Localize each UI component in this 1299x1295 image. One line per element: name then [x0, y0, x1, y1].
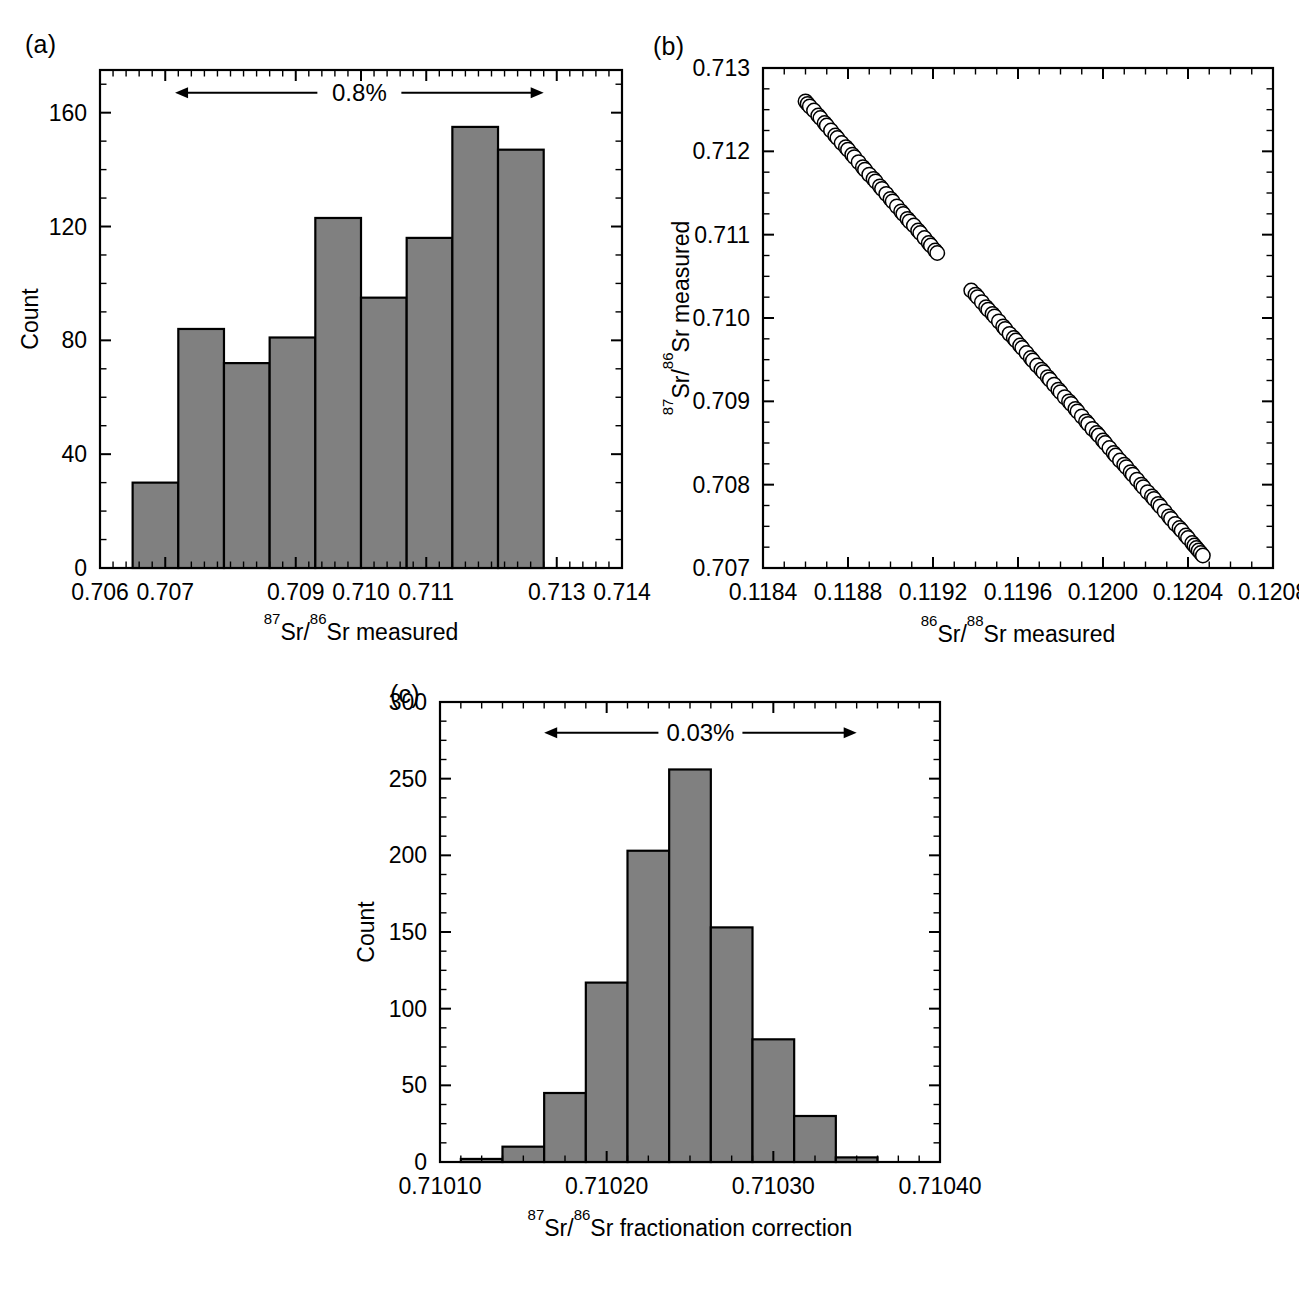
svg-text:87Sr/86Sr measured: 87Sr/86Sr measured [659, 221, 695, 415]
svg-text:87Sr/86Sr fractionation correc: 87Sr/86Sr fractionation correction [528, 1206, 853, 1242]
panel-b: (b) 0.11840.11880.11920.11960.12000.1204… [645, 0, 1299, 660]
histogram-bar [133, 483, 179, 568]
x-tick-label: 0.71030 [732, 1173, 815, 1199]
y-tick-label: 200 [389, 842, 427, 868]
histogram-bar [361, 298, 407, 568]
x-tick-label: 0.1208 [1238, 579, 1299, 605]
histogram-bar [794, 1116, 836, 1162]
x-tick-label: 0.713 [528, 579, 586, 605]
y-tick-label: 0.709 [692, 388, 750, 414]
svg-text:0.03%: 0.03% [666, 719, 734, 746]
histogram-bar [452, 127, 498, 568]
y-tick-label: 160 [49, 100, 87, 126]
x-tick-label: 0.709 [267, 579, 325, 605]
panel-b-chart: 0.11840.11880.11920.11960.12000.12040.12… [645, 0, 1299, 660]
y-tick-label: 100 [389, 996, 427, 1022]
x-tick-label: 0.714 [593, 579, 651, 605]
histogram-bar [669, 769, 711, 1162]
y-tick-label: 0 [74, 555, 87, 581]
y-tick-label: 0.711 [694, 222, 750, 248]
x-tick-label: 0.707 [136, 579, 194, 605]
y-tick-label: 250 [389, 766, 427, 792]
x-axis-label-a: 87Sr/86Sr measured [264, 610, 458, 646]
y-tick-label: 150 [389, 919, 427, 945]
histogram-bar [178, 329, 224, 568]
x-tick-label: 0.1192 [899, 579, 968, 605]
x-tick-label: 0.1204 [1153, 579, 1224, 605]
y-tick-label: 50 [401, 1072, 427, 1098]
histogram-bar [586, 983, 628, 1162]
y-tick-label: 0.712 [692, 138, 750, 164]
x-tick-label: 0.711 [398, 579, 454, 605]
x-tick-label: 0.71020 [565, 1173, 648, 1199]
histogram-bar [544, 1093, 586, 1162]
histogram-bar [753, 1039, 795, 1162]
histogram-bar [498, 150, 544, 568]
y-axis-label-a: Count [17, 288, 43, 350]
x-axis-label-c: 87Sr/86Sr fractionation correction [528, 1206, 853, 1242]
svg-text:0.8%: 0.8% [332, 79, 387, 106]
y-tick-label: 0.708 [692, 472, 750, 498]
histogram-bar [224, 363, 270, 568]
y-tick-label: 0.707 [692, 555, 750, 581]
svg-text:87Sr/86Sr measured: 87Sr/86Sr measured [264, 610, 458, 646]
histogram-bar [315, 218, 361, 568]
panel-a-chart: 0.7060.7070.7090.7100.7110.7130.71404080… [0, 0, 650, 660]
x-tick-label: 0.1184 [729, 579, 798, 605]
panel-c-chart: 0.710100.710200.710300.71040050100150200… [330, 660, 990, 1295]
scatter-point [930, 246, 944, 260]
scatter-point [1196, 548, 1210, 562]
y-axis-label-b: 87Sr/86Sr measured [659, 221, 695, 415]
y-tick-label: 120 [49, 214, 87, 240]
y-tick-label: 40 [61, 441, 87, 467]
panel-a-label: (a) [25, 30, 56, 59]
x-tick-label: 0.706 [71, 579, 129, 605]
histogram-bar [270, 337, 316, 568]
y-axis-label-c: Count [353, 901, 379, 963]
histogram-bar [628, 851, 670, 1162]
x-axis-label-b: 86Sr/88Sr measured [921, 612, 1115, 648]
x-tick-label: 0.71010 [398, 1173, 481, 1199]
y-tick-label: 80 [61, 327, 87, 353]
histogram-bar [711, 927, 753, 1162]
x-tick-label: 0.71040 [898, 1173, 981, 1199]
panel-a: (a) 0.7060.7070.7090.7100.7110.7130.7140… [0, 0, 650, 660]
svg-text:86Sr/88Sr measured: 86Sr/88Sr measured [921, 612, 1115, 648]
x-tick-label: 0.1196 [984, 579, 1053, 605]
panel-c: (c) 0.710100.710200.710300.7104005010015… [330, 660, 990, 1295]
x-tick-label: 0.710 [332, 579, 390, 605]
x-tick-label: 0.1188 [814, 579, 883, 605]
panel-c-label: (c) [390, 680, 420, 709]
histogram-bar [407, 238, 453, 568]
y-tick-label: 0.713 [692, 55, 750, 81]
y-tick-label: 0 [414, 1149, 427, 1175]
y-tick-label: 0.710 [692, 305, 750, 331]
x-tick-label: 0.1200 [1068, 579, 1138, 605]
panel-b-label: (b) [653, 32, 684, 61]
